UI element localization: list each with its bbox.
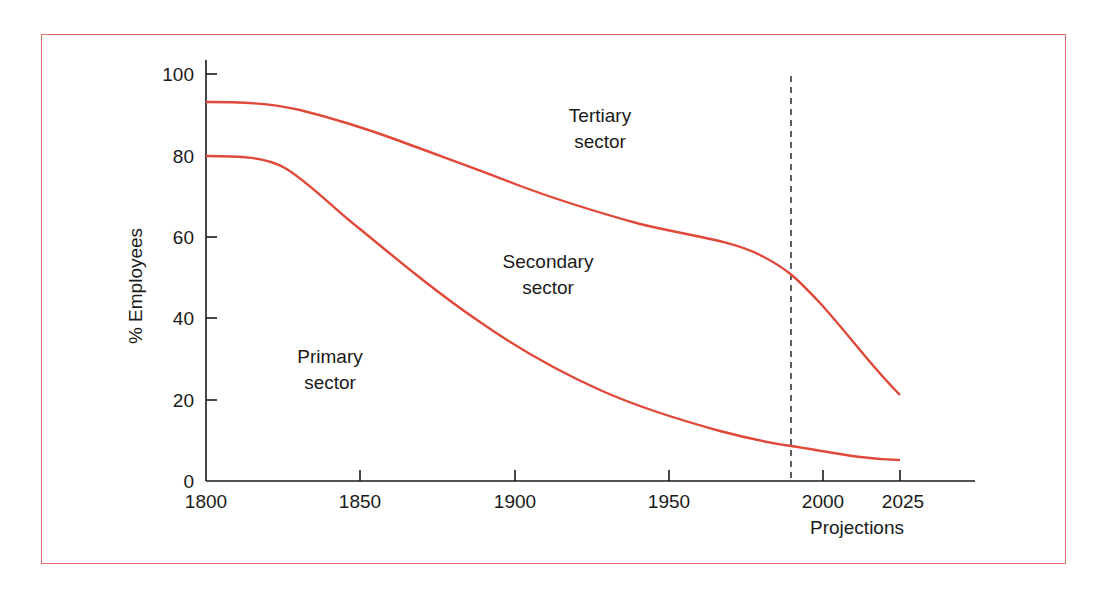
x-tick-1900: 1900	[494, 491, 536, 512]
y-axis	[206, 60, 217, 481]
x-tick-2000: 2000	[802, 491, 844, 512]
y-tick-0: 0	[183, 471, 194, 492]
primary-label-line2: sector	[304, 372, 356, 393]
y-tick-100: 100	[162, 64, 194, 85]
x-axis	[206, 470, 975, 481]
region-label-secondary: Secondary sector	[503, 251, 594, 298]
y-tick-60: 60	[173, 227, 194, 248]
primary-label-line1: Primary	[297, 346, 363, 367]
region-label-tertiary: Tertiary sector	[569, 105, 632, 152]
x-tick-labels: 1800 1850 1900 1950 2000 2025	[185, 491, 924, 512]
tertiary-label-line2: sector	[574, 131, 626, 152]
y-tick-20: 20	[173, 390, 194, 411]
y-axis-label: % Employees	[125, 228, 146, 344]
y-tick-40: 40	[173, 308, 194, 329]
x-tick-2025: 2025	[882, 491, 924, 512]
secondary-label-line2: sector	[522, 277, 574, 298]
x-tick-1950: 1950	[648, 491, 690, 512]
projections-label: Projections	[810, 517, 904, 538]
x-tick-1800: 1800	[185, 491, 227, 512]
y-tick-labels: 100 80 60 40 20 0	[162, 64, 194, 492]
region-label-primary: Primary sector	[297, 346, 363, 393]
x-tick-1850: 1850	[339, 491, 381, 512]
secondary-label-line1: Secondary	[503, 251, 594, 272]
y-tick-80: 80	[173, 146, 194, 167]
primary-boundary-curve	[206, 156, 900, 460]
tertiary-label-line1: Tertiary	[569, 105, 632, 126]
sector-employment-chart: 100 80 60 40 20 0 1800 1850 1900 1950 20…	[0, 0, 1102, 593]
